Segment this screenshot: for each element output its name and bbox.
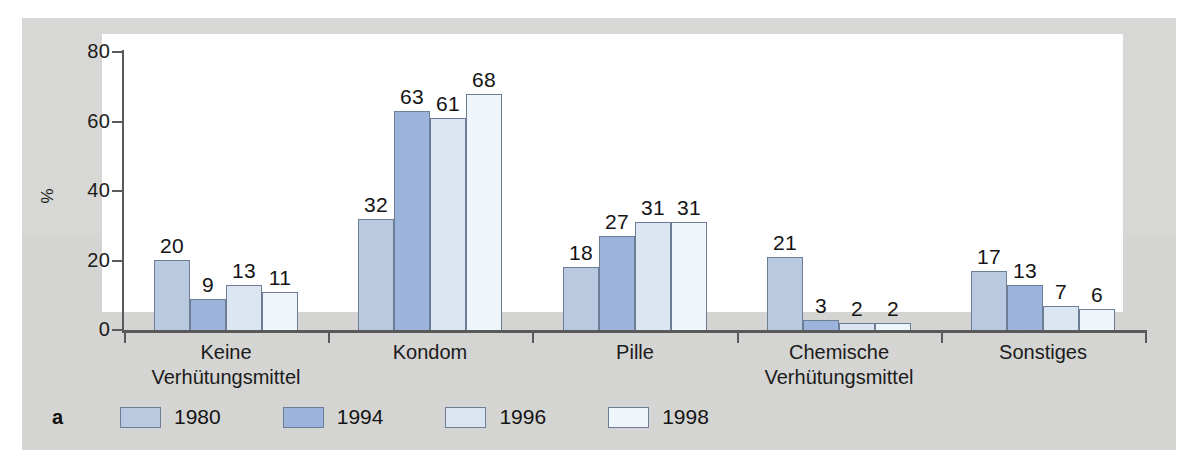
legend-item[interactable]: 1998 <box>608 405 709 429</box>
legend-swatch <box>120 407 161 428</box>
legend-swatch <box>608 407 649 428</box>
category-label-line: Sonstiges <box>913 340 1173 365</box>
legend-label: 1980 <box>174 405 221 429</box>
y-axis-tick <box>112 260 124 262</box>
category-label-line: Verhütungsmittel <box>709 365 969 390</box>
category-label-line: Verhütungsmittel <box>96 365 356 390</box>
legend-label: 1998 <box>662 405 709 429</box>
chart-legend: 1980199419961998 <box>120 405 771 429</box>
figure-root: % 020406080 2091311326361681827313121322… <box>0 0 1198 467</box>
legend-item[interactable]: 1994 <box>283 405 384 429</box>
y-axis-tick-label: 40 <box>50 179 110 202</box>
x-axis-category-label: Sonstiges <box>913 340 1173 365</box>
legend-swatch <box>283 407 324 428</box>
y-axis-tick-label: 0 <box>50 318 110 341</box>
legend-item[interactable]: 1980 <box>120 405 221 429</box>
y-axis-tick-label: 80 <box>50 40 110 63</box>
x-axis-line <box>122 330 1146 333</box>
panel-letter: a <box>52 406 63 429</box>
y-axis-tick <box>112 190 124 192</box>
legend-item[interactable]: 1996 <box>445 405 546 429</box>
y-axis-tick-label: 20 <box>50 249 110 272</box>
y-axis-tick <box>112 51 124 53</box>
plot-area <box>102 34 1123 312</box>
y-axis-tick-label: 60 <box>50 110 110 133</box>
legend-label: 1996 <box>499 405 546 429</box>
y-axis-tick <box>112 121 124 123</box>
legend-label: 1994 <box>337 405 384 429</box>
legend-swatch <box>445 407 486 428</box>
